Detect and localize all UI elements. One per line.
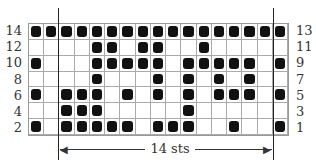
filled-stitch <box>90 24 105 40</box>
empty-stitch <box>197 87 212 103</box>
empty-stitch <box>136 103 151 119</box>
empty-stitch <box>242 40 257 56</box>
repeat-start-line <box>58 8 59 160</box>
filled-stitch <box>29 56 44 72</box>
empty-stitch <box>258 56 273 72</box>
filled-stitch <box>151 24 166 40</box>
empty-stitch <box>166 40 181 56</box>
filled-stitch <box>105 40 120 56</box>
filled-stitch <box>227 24 242 40</box>
row-label: 10 <box>4 55 22 71</box>
empty-stitch <box>136 119 151 135</box>
filled-stitch <box>151 87 166 103</box>
empty-stitch <box>242 103 257 119</box>
filled-stitch <box>212 87 227 103</box>
filled-stitch <box>120 119 135 135</box>
empty-stitch <box>212 40 227 56</box>
filled-stitch <box>242 56 257 72</box>
filled-stitch <box>90 40 105 56</box>
empty-stitch <box>258 103 273 119</box>
empty-stitch <box>29 72 44 88</box>
empty-stitch <box>258 40 273 56</box>
filled-stitch <box>181 56 196 72</box>
empty-stitch <box>136 72 151 88</box>
filled-stitch <box>181 87 196 103</box>
empty-stitch <box>258 87 273 103</box>
empty-stitch <box>166 72 181 88</box>
stitch-grid <box>28 23 289 136</box>
filled-stitch <box>151 40 166 56</box>
filled-stitch <box>273 24 288 40</box>
filled-stitch <box>59 103 74 119</box>
empty-stitch <box>227 40 242 56</box>
empty-stitch <box>258 72 273 88</box>
empty-stitch <box>273 72 288 88</box>
filled-stitch <box>75 87 90 103</box>
filled-stitch <box>105 24 120 40</box>
row-label: 4 <box>4 104 22 120</box>
filled-stitch <box>273 87 288 103</box>
filled-stitch <box>181 72 196 88</box>
filled-stitch <box>29 24 44 40</box>
filled-stitch <box>212 24 227 40</box>
filled-stitch <box>90 87 105 103</box>
row-label: 13 <box>296 23 314 39</box>
filled-stitch <box>197 40 212 56</box>
empty-stitch <box>181 40 196 56</box>
filled-stitch <box>90 72 105 88</box>
filled-stitch <box>242 24 257 40</box>
empty-stitch <box>242 119 257 135</box>
empty-stitch <box>29 40 44 56</box>
filled-stitch <box>197 24 212 40</box>
filled-stitch <box>166 119 181 135</box>
empty-stitch <box>227 103 242 119</box>
empty-stitch <box>151 103 166 119</box>
filled-stitch <box>258 24 273 40</box>
filled-stitch <box>29 119 44 135</box>
filled-stitch <box>227 87 242 103</box>
row-label: 3 <box>296 104 314 120</box>
empty-stitch <box>105 72 120 88</box>
empty-stitch <box>59 40 74 56</box>
empty-stitch <box>105 103 120 119</box>
empty-stitch <box>273 40 288 56</box>
filled-stitch <box>59 87 74 103</box>
row-label: 14 <box>4 23 22 39</box>
filled-stitch <box>75 103 90 119</box>
empty-stitch <box>166 56 181 72</box>
filled-stitch <box>105 119 120 135</box>
empty-stitch <box>105 87 120 103</box>
empty-stitch <box>197 119 212 135</box>
filled-stitch <box>151 119 166 135</box>
empty-stitch <box>59 72 74 88</box>
empty-stitch <box>273 103 288 119</box>
filled-stitch <box>151 56 166 72</box>
empty-stitch <box>212 103 227 119</box>
filled-stitch <box>212 56 227 72</box>
empty-stitch <box>59 56 74 72</box>
filled-stitch <box>59 119 74 135</box>
row-label: 5 <box>296 88 314 104</box>
knitting-chart: 1412108642 131197531 ◀ ▶ 14 sts <box>0 0 316 167</box>
filled-stitch <box>242 72 257 88</box>
row-label: 2 <box>4 120 22 136</box>
row-label: 1 <box>296 120 314 136</box>
filled-stitch <box>136 40 151 56</box>
filled-stitch <box>227 119 242 135</box>
row-label: 11 <box>296 39 314 55</box>
row-label: 12 <box>4 39 22 55</box>
filled-stitch <box>90 103 105 119</box>
filled-stitch <box>227 56 242 72</box>
row-label: 9 <box>296 55 314 71</box>
empty-stitch <box>120 72 135 88</box>
empty-stitch <box>166 87 181 103</box>
filled-stitch <box>181 24 196 40</box>
empty-stitch <box>120 103 135 119</box>
empty-stitch <box>75 40 90 56</box>
filled-stitch <box>120 87 135 103</box>
empty-stitch <box>166 103 181 119</box>
filled-stitch <box>75 24 90 40</box>
filled-stitch <box>242 87 257 103</box>
filled-stitch <box>136 56 151 72</box>
row-label: 7 <box>296 72 314 88</box>
